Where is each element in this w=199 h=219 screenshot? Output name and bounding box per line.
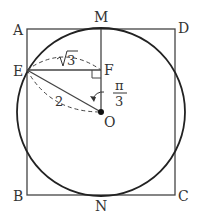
angle-label: π 3: [113, 78, 127, 109]
label-a: A: [12, 22, 24, 38]
label-c: C: [178, 188, 189, 204]
right-angle-mark: [92, 70, 101, 78]
label-m: M: [94, 9, 108, 25]
geometry-diagram: A M D E F O B N C 3 2 π 3: [0, 0, 199, 219]
label-e: E: [13, 63, 23, 79]
radius-label: 2: [55, 94, 63, 109]
svg-text:3: 3: [67, 53, 75, 68]
label-n: N: [95, 198, 107, 214]
label-f: F: [104, 62, 114, 78]
label-o: O: [104, 114, 115, 130]
angle-arrow-icon: [90, 96, 96, 102]
svg-text:π: π: [115, 78, 124, 93]
segment-eo: [27, 70, 101, 112]
sqrt3-label: 3: [57, 51, 78, 68]
label-d: D: [178, 20, 189, 36]
label-b: B: [13, 188, 23, 204]
svg-text:3: 3: [115, 94, 123, 109]
